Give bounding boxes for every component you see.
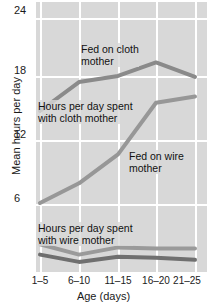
y-tick-label-12: 12 (14, 128, 34, 140)
plot-area: Fed on cloth mother Hours per day spent … (36, 2, 207, 272)
series-line-fed-on-wire-mother (40, 255, 195, 262)
annotation-fed-on-wire-mother: Fed on wire mother (129, 150, 184, 174)
annotation-fed-on-cloth-mother: Fed on cloth mother (81, 43, 139, 67)
x-tick-label-21-25: 21–25 (167, 275, 207, 286)
x-tick-label-6-10: 6–10 (59, 275, 99, 286)
chart-figure: Mean hours per day 24 18 12 6 Fed on clo… (0, 0, 207, 305)
x-axis-title: Age (days) (0, 290, 207, 302)
y-axis-title: Mean hours per day (10, 66, 22, 186)
y-tick-label-6: 6 (14, 192, 34, 204)
annotation-hours-with-cloth-mother: Hours per day spent with cloth mother (38, 100, 133, 124)
annotation-hours-with-wire-mother: Hours per day spent with wire mother (38, 222, 133, 246)
y-tick-label-18: 18 (14, 64, 34, 76)
x-tick-label-11-15: 11–15 (98, 275, 138, 286)
x-tick-label-1-5: 1–5 (20, 275, 60, 286)
y-tick-label-24: 24 (14, 4, 34, 16)
